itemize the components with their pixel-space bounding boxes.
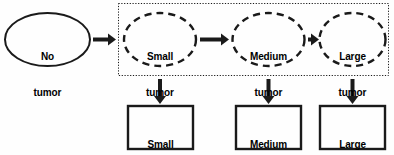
diagram-canvas: No tumor Small tumor Medium tumor Large … (0, 0, 394, 155)
small-tumor-observation-box (128, 106, 193, 149)
medium-tumor-observation-box (236, 106, 301, 149)
arrow-medium-state-to-observation (263, 79, 275, 104)
large-tumor-observation-box (320, 106, 385, 149)
diagram-graphics (0, 0, 394, 155)
arrow-large-state-to-observation (347, 79, 359, 104)
arrow-small-to-medium (200, 34, 229, 46)
large-tumor-state-ellipse (320, 13, 386, 66)
arrow-no-tumor-to-small (93, 34, 116, 46)
arrow-small-state-to-observation (154, 79, 166, 104)
no-tumor-ellipse (5, 13, 90, 66)
small-tumor-state-ellipse (124, 13, 196, 66)
medium-tumor-state-ellipse (233, 13, 305, 66)
arrow-medium-to-large (308, 34, 319, 46)
